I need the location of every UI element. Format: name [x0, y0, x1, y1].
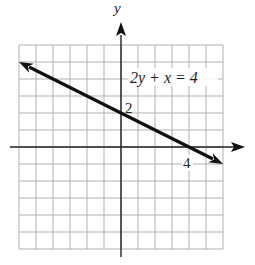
coordinate-plane: y 2y + x = 4 2 4 — [0, 0, 255, 265]
y-axis-arrow-icon — [116, 22, 126, 36]
y-axis-label: y — [112, 0, 121, 16]
x-intercept-label: 4 — [183, 155, 191, 171]
equation-label: 2y + x = 4 — [130, 69, 198, 87]
y-intercept-label: 2 — [125, 100, 133, 116]
